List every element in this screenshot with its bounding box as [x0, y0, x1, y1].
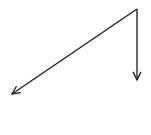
diagonal-arrow-head-icon	[12, 86, 21, 94]
vertical-arrow	[133, 9, 141, 80]
diagonal-arrow	[12, 9, 137, 94]
diagonal-arrow-shaft	[12, 9, 137, 94]
vector-diagram	[0, 0, 151, 135]
